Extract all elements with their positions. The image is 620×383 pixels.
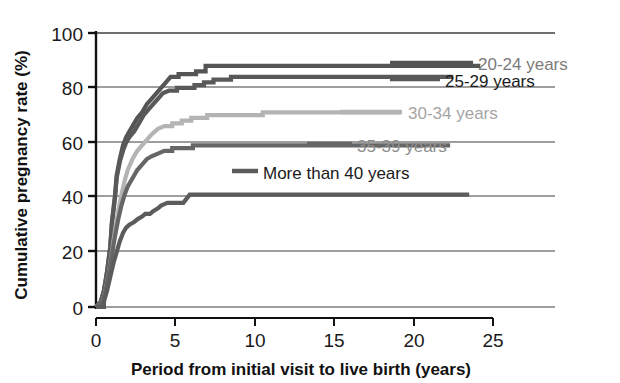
legend-label-more-than-40: More than 40 years [263,164,409,183]
y-tick-label-20: 20 [62,242,83,263]
chart-page: 100 80 60 40 20 0 0 5 10 15 20 25 Period… [0,0,620,383]
x-tick-label-20: 20 [403,330,424,351]
y-axis-title: Cumulative pregnancy rate (%) [12,50,31,299]
x-tick-label-5: 5 [170,330,181,351]
x-tick-label-25: 25 [482,330,503,351]
x-tick-label-0: 0 [91,330,102,351]
x-tick-label-15: 15 [323,330,344,351]
x-tick-label-10: 10 [244,330,265,351]
legend-label-35-39: 35-39 years [357,137,447,156]
legend-label-25-29: 25-29 years [445,72,535,91]
y-tick-label-60: 60 [62,133,83,154]
legend-label-30-34: 30-34 years [408,104,498,123]
y-tick-label-40: 40 [62,187,83,208]
y-tick-label-0: 0 [72,298,83,319]
cumulative-pregnancy-rate-chart: 100 80 60 40 20 0 0 5 10 15 20 25 Period… [0,0,620,383]
y-tick-label-80: 80 [62,78,83,99]
y-tick-label-100: 100 [51,24,83,45]
x-axis-title: Period from initial visit to live birth … [131,360,471,379]
